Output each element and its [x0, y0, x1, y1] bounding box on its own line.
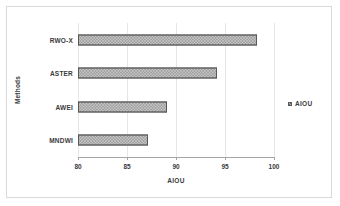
plot-area: RWO-X ASTER AWEI MNDWI: [78, 23, 274, 157]
bar-aster[interactable]: [78, 68, 217, 79]
category-label-1: ASTER: [50, 70, 73, 77]
x-axis-title: AIOU: [78, 177, 274, 184]
tick-mark-95: [225, 157, 226, 160]
bar-row: RWO-X: [78, 23, 274, 57]
x-tick-label-85: 85: [123, 163, 130, 170]
gridline-100: [274, 23, 275, 157]
tick-mark-80: [78, 157, 79, 160]
tick-mark-90: [176, 157, 177, 160]
tick-mark-100: [274, 157, 275, 160]
bar-mndwi[interactable]: [78, 135, 148, 146]
x-tick-label-80: 80: [74, 163, 81, 170]
chart-legend: AIOU: [288, 100, 312, 107]
x-tick-label-90: 90: [172, 163, 179, 170]
legend-label: AIOU: [295, 100, 312, 107]
category-label-2: AWEI: [56, 103, 73, 110]
x-tick-label-95: 95: [221, 163, 228, 170]
bar-row: MNDWI: [78, 124, 274, 158]
x-tick-label-100: 100: [269, 163, 280, 170]
bar-awei[interactable]: [78, 101, 167, 112]
category-label-3: MNDWI: [49, 137, 73, 144]
legend-swatch-icon: [288, 102, 292, 106]
bar-row: ASTER: [78, 57, 274, 91]
bar-rwo-x[interactable]: [78, 34, 257, 45]
tick-mark-85: [127, 157, 128, 160]
chart-frame: RWO-X ASTER AWEI MNDWI 80 85 90 95 100 A…: [6, 6, 332, 198]
y-axis-title: Methods: [14, 76, 21, 104]
bar-row: AWEI: [78, 90, 274, 124]
category-label-0: RWO-X: [50, 36, 73, 43]
